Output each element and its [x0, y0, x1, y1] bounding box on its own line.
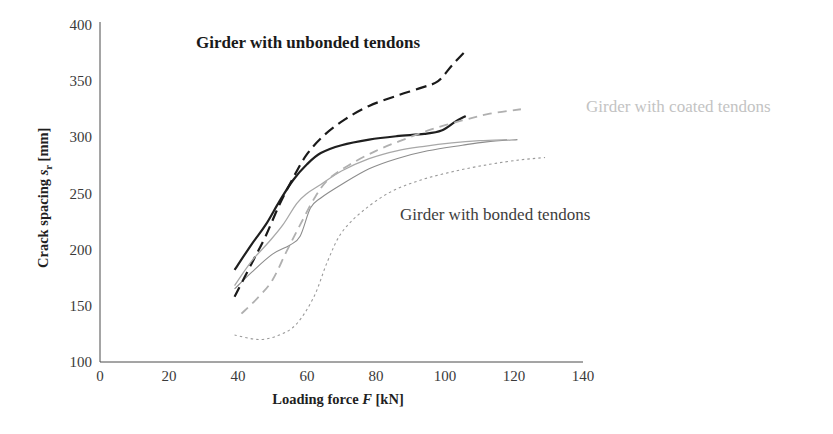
x-tick-label: 0 [96, 368, 104, 384]
chart-figure: 100150200250300350400 020406080100120140… [0, 0, 833, 434]
y-tick-label: 200 [70, 242, 93, 258]
y-tick-label: 300 [70, 129, 93, 145]
annotation-3: Girder with bonded tendons [400, 205, 590, 224]
x-tick-label: 80 [369, 368, 384, 384]
svg-text:Loading force F [kN]: Loading force F [kN] [272, 391, 403, 407]
x-tick-label: 120 [503, 368, 526, 384]
crack-spacing-chart: 100150200250300350400 020406080100120140… [0, 0, 833, 434]
annotation-2: Girder with coated tendons [586, 97, 771, 116]
annotation-1: Girder with unbonded tendons [196, 33, 420, 52]
y-tick-label: 400 [70, 17, 93, 33]
y-tick-label: 150 [70, 298, 93, 314]
x-axis-title-unit: [kN] [372, 391, 404, 407]
x-axis-title-symbol: F [361, 391, 372, 407]
y-tick-label: 250 [70, 186, 93, 202]
x-tick-label: 60 [300, 368, 315, 384]
y-axis-title-unit: [mm] [35, 128, 51, 165]
y-tick-label: 100 [70, 354, 93, 370]
x-tick-label: 40 [231, 368, 246, 384]
x-axis-title: Loading force F [kN] [272, 391, 403, 407]
y-axis-title-text: Crack spacing [35, 175, 51, 268]
y-tick-label: 350 [70, 73, 93, 89]
x-tick-label: 140 [572, 368, 595, 384]
x-axis-title-text: Loading force [272, 391, 362, 407]
x-tick-label: 20 [162, 368, 177, 384]
x-tick-label: 100 [434, 368, 457, 384]
